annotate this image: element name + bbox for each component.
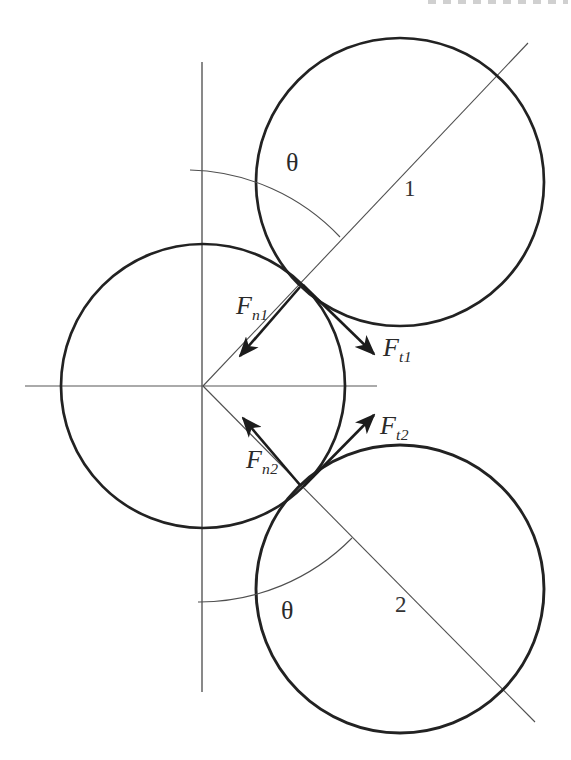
fn1-subscript: n1 [252,306,269,323]
center-line-to-sphere-1 [203,43,528,386]
ft1-label: Ft1 [383,335,412,365]
fn2-subscript: n2 [262,460,279,477]
sphere-2-circle [256,445,544,733]
ft1-subscript: t1 [399,348,412,365]
ft2-symbol: F [380,411,396,440]
theta-top-label: θ [286,150,298,176]
ft2-label: Ft2 [380,413,409,443]
theta-angle-arc-bottom [198,538,352,602]
theta-bottom-label: θ [281,598,293,624]
fn2-symbol: F [246,445,262,474]
fn1-label: Fn1 [236,293,268,323]
sphere-2-label: 2 [395,593,407,616]
fn1-symbol: F [236,291,252,320]
fn2-label: Fn2 [246,447,278,477]
center-line-to-sphere-2 [203,386,535,722]
textbook-figure: θ 1 Fn1 Ft1 Ft2 Fn2 θ 2 [0,0,571,760]
contact-forces-diagram [0,0,571,760]
ft1-symbol: F [383,333,399,362]
theta-angle-arc-top [190,170,340,237]
ft2-subscript: t2 [396,426,409,443]
sphere-1-label: 1 [404,177,416,200]
